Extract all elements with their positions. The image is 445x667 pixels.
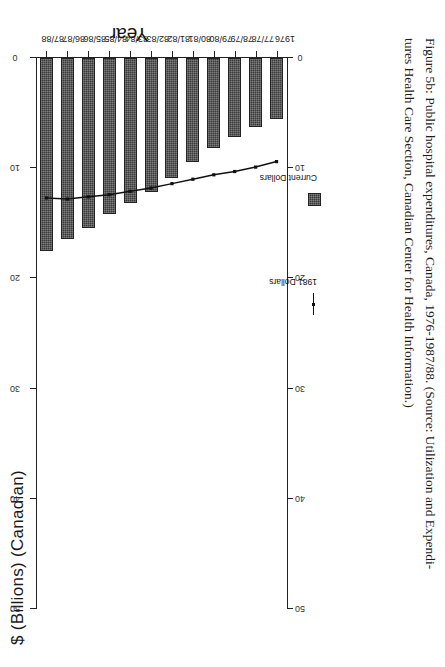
legend-label-current-dollars: Current Dollars bbox=[260, 173, 317, 183]
legend-line-marker-icon bbox=[312, 303, 315, 306]
chart-inner: $ (Billions) (Canadian) 5050404030302020… bbox=[0, 0, 340, 667]
figure-caption: Figure 5b: Public hospital expenditures,… bbox=[385, 38, 440, 618]
caption-line-1: Figure 5b: Public hospital expenditures,… bbox=[419, 38, 440, 618]
legend-label-1981-dollars: 1981 Dollars bbox=[269, 277, 317, 287]
figure-container: $ (Billions) (Canadian) 5050404030302020… bbox=[0, 0, 445, 667]
chart-legend: 1981 Dollars Current Dollars bbox=[0, 0, 340, 667]
legend-bar-swatch bbox=[308, 193, 321, 206]
rotated-chart-canvas: $ (Billions) (Canadian) 5050404030302020… bbox=[0, 0, 340, 667]
caption-line-2: tures Health Care Section, Canadian Cent… bbox=[398, 38, 419, 618]
